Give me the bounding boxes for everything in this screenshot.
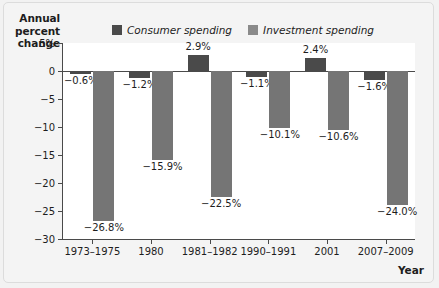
- x-axis-tick-label: 1980: [138, 246, 163, 257]
- bar: [70, 71, 91, 74]
- plot-area: 5%0−5−10−15−20−25−301973–1975−0.6%−26.8%…: [62, 43, 415, 240]
- x-axis-tick: [92, 239, 93, 244]
- bar-value-label: −15.9%: [142, 161, 182, 172]
- x-axis-tick: [327, 239, 328, 244]
- plot-inner: 5%0−5−10−15−20−25−301973–1975−0.6%−26.8%…: [63, 43, 415, 239]
- y-axis-tick-label: 0: [49, 66, 55, 77]
- y-axis-tick: [58, 71, 63, 72]
- y-axis-tick-label: −5: [40, 94, 55, 105]
- bar-value-label: −10.6%: [318, 131, 358, 142]
- x-axis-tick: [151, 239, 152, 244]
- y-axis-tick-label: −15: [34, 150, 55, 161]
- y-axis-tick: [58, 211, 63, 212]
- x-axis-tick-label: 1973–1975: [64, 246, 120, 257]
- bar: [211, 71, 232, 197]
- bar: [364, 71, 385, 80]
- y-axis-tick-label: 5%: [39, 38, 55, 49]
- bar: [305, 58, 326, 71]
- y-axis-tick: [58, 99, 63, 100]
- bar-value-label: 2.9%: [185, 41, 210, 52]
- legend-swatch-icon: [248, 25, 258, 35]
- bar-value-label: −24.0%: [377, 206, 417, 217]
- bar: [246, 71, 267, 77]
- bar: [387, 71, 408, 205]
- y-axis-tick: [58, 183, 63, 184]
- legend-swatch-icon: [112, 25, 122, 35]
- y-axis-title-line-1: Annual: [6, 12, 60, 25]
- bar: [269, 71, 290, 128]
- bar: [328, 71, 349, 130]
- x-axis-tick-label: 2007–2009: [358, 246, 414, 257]
- y-axis-tick-label: −10: [34, 122, 55, 133]
- legend-label: Consumer spending: [127, 24, 232, 36]
- y-axis-tick-label: −25: [34, 206, 55, 217]
- x-axis-tick-label: 1981–1982: [182, 246, 238, 257]
- x-axis-tick-label: 1990–1991: [240, 246, 296, 257]
- y-axis-tick-label: −20: [34, 178, 55, 189]
- y-axis-tick: [58, 155, 63, 156]
- bar-value-label: 2.4%: [303, 44, 328, 55]
- x-axis-tick: [386, 239, 387, 244]
- x-axis-tick: [268, 239, 269, 244]
- zero-baseline: [63, 71, 415, 72]
- chart-figure: Annual percent change Consumer spendingI…: [0, 0, 439, 288]
- y-axis-tick: [58, 43, 63, 44]
- x-axis-tick: [210, 239, 211, 244]
- y-axis-title-line-2: percent: [6, 25, 60, 38]
- y-axis-tick-label: −30: [34, 234, 55, 245]
- x-axis-tick-label: 2001: [314, 246, 339, 257]
- bar-value-label: −26.8%: [84, 222, 124, 233]
- legend-item: Investment spending: [248, 24, 374, 36]
- legend-item: Consumer spending: [112, 24, 232, 36]
- y-axis-tick: [58, 239, 63, 240]
- bar-value-label: −22.5%: [201, 198, 241, 209]
- bar: [93, 71, 114, 221]
- bar: [188, 55, 209, 71]
- x-axis-title: Year: [0, 264, 424, 276]
- chart-legend: Consumer spendingInvestment spending: [112, 24, 374, 36]
- bar: [152, 71, 173, 160]
- y-axis-tick: [58, 127, 63, 128]
- bar: [129, 71, 150, 78]
- legend-label: Investment spending: [263, 24, 374, 36]
- bar-value-label: −10.1%: [260, 129, 300, 140]
